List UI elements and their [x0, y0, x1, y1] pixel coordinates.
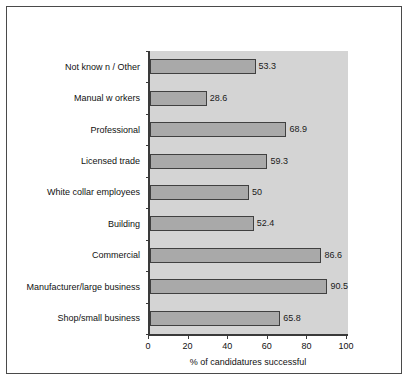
bar-row: 86.6: [150, 240, 348, 271]
category-label: Professional: [90, 114, 140, 145]
x-axis-tick: [188, 334, 189, 339]
category-label: Building: [108, 208, 140, 239]
bar: [150, 185, 249, 200]
y-axis-tick: [146, 240, 150, 241]
x-axis-tick: [227, 334, 228, 339]
bar-value-label: 53.3: [259, 62, 277, 71]
bar-row: 28.6: [150, 82, 348, 113]
bar-value-label: 68.9: [289, 125, 307, 134]
bar-value-label: 50: [252, 188, 262, 197]
x-axis-tick-label: 40: [222, 341, 232, 351]
bar-value-label: 52.4: [257, 219, 275, 228]
x-axis-tick-label: 80: [301, 341, 311, 351]
bar-row: 90.5: [150, 271, 348, 302]
y-axis-category-labels: Not know n / OtherManual w orkersProfess…: [7, 51, 146, 334]
bar-value-label: 86.6: [324, 251, 342, 260]
category-label: White collar employees: [47, 177, 140, 208]
figure-frame: Not know n / OtherManual w orkersProfess…: [6, 6, 402, 374]
y-axis-tick: [146, 51, 150, 52]
plot-area: 53.328.668.959.35052.486.690.565.8: [148, 51, 348, 334]
y-axis-tick: [146, 145, 150, 146]
bar: [150, 122, 286, 137]
bar-row: 50: [150, 177, 348, 208]
category-label: Commercial: [92, 240, 140, 271]
bar: [150, 311, 280, 326]
bar-value-label: 90.5: [330, 282, 348, 291]
bar-row: 65.8: [150, 303, 348, 334]
x-axis-tick-label: 0: [145, 341, 150, 351]
bar-value-label: 28.6: [210, 94, 228, 103]
x-axis-line: [148, 334, 348, 336]
x-axis-tick: [346, 334, 347, 339]
bar: [150, 279, 327, 294]
y-axis-tick: [146, 208, 150, 209]
x-axis-tick: [306, 334, 307, 339]
y-axis-tick: [146, 303, 150, 304]
x-axis-title: % of candidatures successful: [148, 357, 348, 367]
bar-row: 59.3: [150, 145, 348, 176]
category-label: Licensed trade: [81, 145, 140, 176]
category-label: Shop/small business: [57, 303, 140, 334]
bars-layer: 53.328.668.959.35052.486.690.565.8: [150, 51, 348, 334]
x-axis-tick-label: 100: [338, 341, 353, 351]
y-axis-tick: [146, 271, 150, 272]
x-axis-tick: [148, 334, 149, 339]
category-label: Not know n / Other: [65, 51, 140, 82]
category-label: Manual w orkers: [74, 82, 140, 113]
y-axis-tick: [146, 177, 150, 178]
bar: [150, 91, 207, 106]
bar-value-label: 59.3: [270, 157, 288, 166]
bar-value-label: 65.8: [283, 314, 301, 323]
bar: [150, 248, 321, 263]
bar: [150, 154, 267, 169]
bar-row: 53.3: [150, 51, 348, 82]
bar-row: 68.9: [150, 114, 348, 145]
bar: [150, 216, 254, 231]
y-axis-tick: [146, 82, 150, 83]
x-axis-tick-label: 60: [262, 341, 272, 351]
bar: [150, 59, 256, 74]
x-axis-tick-label: 20: [183, 341, 193, 351]
y-axis-tick: [146, 114, 150, 115]
bar-row: 52.4: [150, 208, 348, 239]
x-axis-tick: [267, 334, 268, 339]
category-label: Manufacturer/large business: [26, 271, 140, 302]
